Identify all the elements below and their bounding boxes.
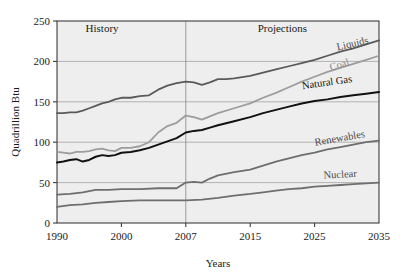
- x-tick-label-1990: 1990: [46, 230, 69, 242]
- annotation-history: History: [86, 22, 120, 34]
- y-tick-label-100: 100: [34, 136, 51, 148]
- x-tick-label-2015: 2015: [239, 230, 262, 242]
- x-tick-label-2000: 2000: [110, 230, 133, 242]
- y-tick-label-0: 0: [45, 217, 51, 229]
- x-tick-label-2025: 2025: [304, 230, 327, 242]
- y-tick-label-250: 250: [34, 15, 51, 27]
- x-axis-title: Years: [206, 257, 231, 269]
- annotation-projections: Projections: [258, 22, 308, 34]
- y-axis-title: Quadrillion Btu: [9, 87, 21, 157]
- plot-area-background: [57, 21, 379, 223]
- x-tick-label-2035: 2035: [368, 230, 391, 242]
- x-tick-label-2007: 2007: [175, 230, 198, 242]
- y-tick-label-200: 200: [34, 55, 51, 67]
- y-tick-label-50: 50: [39, 177, 51, 189]
- y-tick-label-150: 150: [34, 96, 51, 108]
- energy-consumption-line-chart: 050100150200250 199020002007201520252035…: [0, 0, 403, 276]
- series-label-nuclear: Nuclear: [323, 168, 357, 181]
- chart-container: 050100150200250 199020002007201520252035…: [0, 0, 403, 276]
